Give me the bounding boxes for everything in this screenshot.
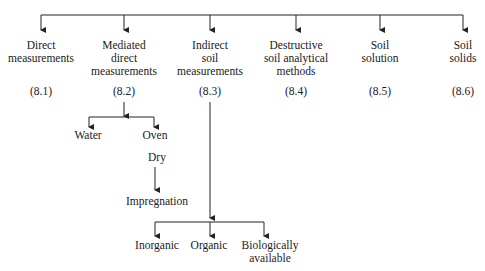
node-soil-solids: Soil solids <box>450 39 477 65</box>
node-indirect-soil-measurements: Indirect soil measurements <box>177 39 243 78</box>
ref-8-2: (8.2) <box>113 85 135 98</box>
node-label-line: Direct <box>8 39 74 52</box>
ref-8-4: (8.4) <box>285 85 307 98</box>
node-label-line: Organic <box>191 239 228 252</box>
ref-8-3: (8.3) <box>199 85 221 98</box>
node-label-line: Indirect <box>177 39 243 52</box>
node-label-line: solution <box>361 52 398 65</box>
node-label-line: Soil <box>450 39 477 52</box>
node-label-line: Soil <box>361 39 398 52</box>
ref-8-5: (8.5) <box>369 85 391 98</box>
node-label-line: Destructive <box>264 39 328 52</box>
node-organic: Organic <box>191 239 228 252</box>
node-label-line: Mediated <box>91 39 157 52</box>
node-label-line: measurements <box>177 65 243 78</box>
node-label-line: Biologically <box>242 239 299 252</box>
node-soil-solution: Soil solution <box>361 39 398 65</box>
node-biologically-available: Biologically available <box>242 239 299 265</box>
ref-8-6: (8.6) <box>452 85 474 98</box>
node-mediated-direct-measurements: Mediated direct measurements <box>91 39 157 78</box>
node-oven: Oven <box>143 129 168 142</box>
node-water: Water <box>74 129 101 142</box>
node-label-line: soil <box>177 52 243 65</box>
node-inorganic: Inorganic <box>135 239 179 252</box>
node-label-line: available <box>242 252 299 265</box>
node-destructive-soil-analytical-methods: Destructive soil analytical methods <box>264 39 328 78</box>
node-label-line: Inorganic <box>135 239 179 252</box>
node-impregnation: Impregnation <box>126 195 188 208</box>
node-label-line: measurements <box>8 52 74 65</box>
node-dry: Dry <box>148 151 166 164</box>
node-label-line: methods <box>264 65 328 78</box>
node-label-line: direct <box>91 52 157 65</box>
node-direct-measurements: Direct measurements <box>8 39 74 65</box>
node-label-line: measurements <box>91 65 157 78</box>
ref-8-1: (8.1) <box>30 85 52 98</box>
node-label-line: solids <box>450 52 477 65</box>
node-label-line: soil analytical <box>264 52 328 65</box>
